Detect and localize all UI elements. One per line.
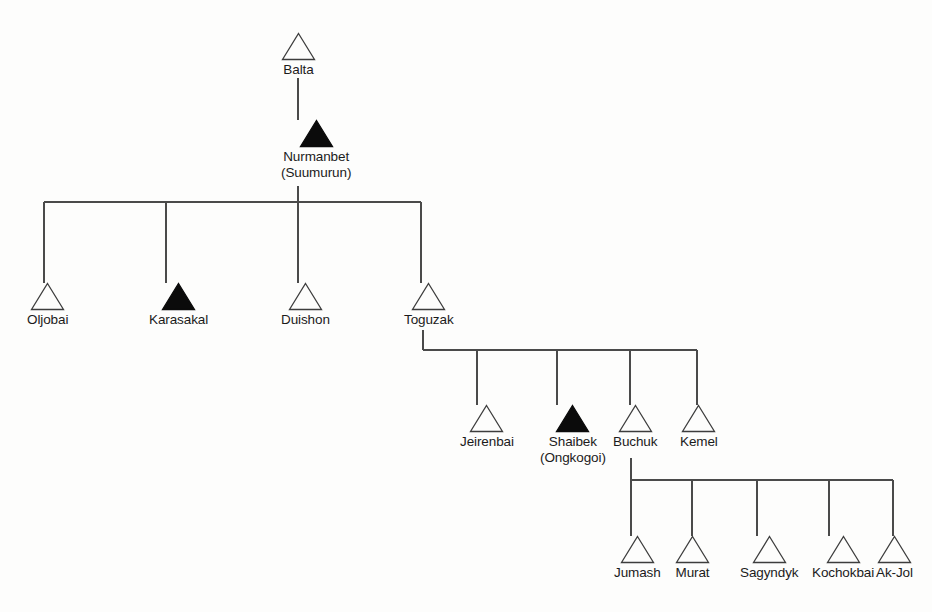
open-triangle-icon	[281, 32, 316, 61]
person-duishon[interactable]: Duishon	[281, 282, 330, 328]
person-label: Sagyndyk	[740, 565, 799, 581]
person-nurmanbet[interactable]: Nurmanbet (Suumurun)	[281, 119, 351, 180]
person-label: Ak-Jol	[876, 565, 913, 581]
person-jeirenbai[interactable]: Jeirenbai	[460, 404, 514, 450]
person-label: Toguzak	[404, 312, 454, 328]
filled-triangle-icon	[161, 282, 196, 311]
person-balta[interactable]: Balta	[281, 32, 316, 78]
open-triangle-icon	[826, 535, 861, 564]
person-oljobai[interactable]: Oljobai	[27, 282, 68, 328]
lineage-lines	[0, 0, 932, 612]
person-label: Oljobai	[27, 312, 68, 328]
person-murat[interactable]: Murat	[675, 535, 710, 581]
person-alias: (Suumurun)	[281, 165, 351, 181]
open-triangle-icon	[620, 535, 655, 564]
person-label: Nurmanbet	[283, 149, 349, 165]
open-triangle-icon	[752, 535, 787, 564]
person-label: Kemel	[680, 434, 718, 450]
open-triangle-icon	[675, 535, 710, 564]
person-label: Buchuk	[613, 434, 657, 450]
person-shaibek[interactable]: Shaibek (Ongkogoi)	[540, 404, 606, 465]
open-triangle-icon	[30, 282, 65, 311]
person-label: Jumash	[614, 565, 661, 581]
open-triangle-icon	[288, 282, 323, 311]
person-label: Murat	[675, 565, 709, 581]
person-sagyndyk[interactable]: Sagyndyk	[740, 535, 799, 581]
person-kemel[interactable]: Kemel	[680, 404, 718, 450]
person-jumash[interactable]: Jumash	[614, 535, 661, 581]
open-triangle-icon	[618, 404, 653, 433]
person-toguzak[interactable]: Toguzak	[404, 282, 454, 328]
person-label: Kochokbai	[812, 565, 874, 581]
person-label: Karasakal	[149, 312, 208, 328]
person-buchuk[interactable]: Buchuk	[613, 404, 657, 450]
filled-triangle-icon	[555, 404, 590, 433]
genealogy-chart: Balta Nurmanbet (Suumurun) Oljobai Karas…	[0, 0, 932, 612]
person-kochokbai[interactable]: Kochokbai	[812, 535, 874, 581]
person-label: Balta	[283, 62, 313, 78]
person-label: Duishon	[281, 312, 330, 328]
open-triangle-icon	[681, 404, 716, 433]
person-alias: (Ongkogoi)	[540, 450, 606, 466]
open-triangle-icon	[469, 404, 504, 433]
filled-triangle-icon	[299, 119, 334, 148]
person-karasakal[interactable]: Karasakal	[149, 282, 208, 328]
person-label: Shaibek	[549, 434, 597, 450]
person-akjol[interactable]: Ak-Jol	[876, 535, 913, 581]
person-label: Jeirenbai	[460, 434, 514, 450]
open-triangle-icon	[877, 535, 912, 564]
open-triangle-icon	[411, 282, 446, 311]
